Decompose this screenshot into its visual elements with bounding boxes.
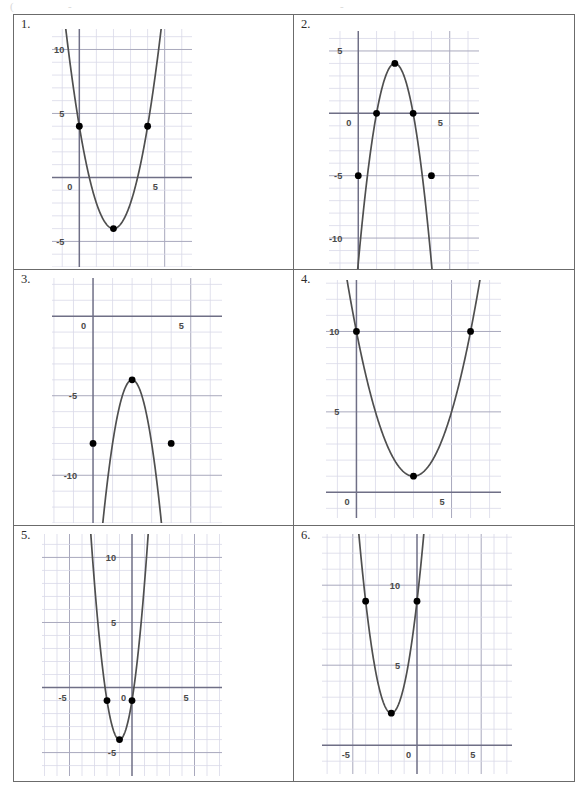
x-axis-tick-label: 0 [81, 322, 86, 332]
y-axis-tick-label: 10 [106, 553, 116, 563]
data-point [388, 709, 395, 716]
x-axis-tick-label: 0 [344, 498, 349, 508]
graph-4: 05105 [294, 270, 574, 524]
x-axis-tick-label: 0 [406, 750, 411, 760]
data-point [110, 225, 117, 232]
data-point [129, 697, 136, 704]
graph-1: 05105-5 [14, 15, 293, 269]
y-axis-tick-label: -10 [64, 471, 77, 481]
data-point [428, 172, 435, 179]
graph-5: -505105-5 [14, 526, 293, 781]
data-point [391, 60, 398, 67]
problem-number-6: 6. [301, 529, 310, 542]
problem-cell-1: 1. 05105-5 [14, 15, 294, 270]
data-point [355, 172, 362, 179]
x-axis-tick-label: -5 [59, 692, 67, 702]
x-axis-tick-label: 5 [470, 750, 475, 760]
x-axis-tick-label: 0 [121, 692, 126, 702]
problem-cell-3: 3. 05-5-10 [14, 270, 294, 525]
x-axis-tick-label: 5 [440, 498, 445, 508]
y-axis-tick-label: 10 [54, 45, 64, 55]
y-axis-tick-label: 10 [390, 580, 400, 590]
x-axis-tick-label: 5 [184, 692, 189, 702]
problem-cell-6: 6. -505105 [294, 526, 574, 781]
x-axis-tick-label: 5 [153, 182, 158, 192]
problem-number-3: 3. [21, 273, 30, 286]
y-axis-tick-label: 5 [334, 408, 339, 418]
graph-2: 055-5-10 [294, 15, 574, 269]
x-axis-tick-label: 0 [346, 118, 351, 128]
problem-cell-5: 5. -505105-5 [14, 526, 294, 781]
problem-cell-4: 4. 05105 [294, 270, 574, 525]
problem-number-5: 5. [21, 529, 30, 542]
x-axis-tick-label: 5 [438, 118, 443, 128]
y-axis-tick-label: -10 [329, 234, 342, 244]
data-point [104, 697, 111, 704]
data-point [353, 328, 360, 335]
data-point [116, 736, 123, 743]
y-axis-tick-label: 5 [395, 660, 400, 670]
x-axis-tick-label: 5 [179, 322, 184, 332]
graph-6: -505105 [294, 526, 574, 781]
y-axis-tick-label: 5 [337, 46, 342, 56]
data-point [76, 123, 83, 130]
data-point [90, 440, 97, 447]
data-point [410, 110, 417, 117]
graph-3: 05-5-10 [14, 270, 293, 524]
problem-cell-2: 2. 055-5-10 [294, 15, 574, 270]
scan-artifact: ( - - [0, 0, 588, 12]
y-axis-tick-label: 5 [111, 618, 116, 628]
problem-number-4: 4. [301, 273, 310, 286]
y-axis-tick-label: 10 [329, 327, 339, 337]
worksheet-grid: 1. 05105-5 2. 055-5-10 3. 05-5-10 4. 051… [13, 14, 575, 782]
y-axis-tick-label: -5 [108, 748, 116, 758]
problem-number-1: 1. [21, 18, 30, 31]
x-axis-tick-label: -5 [342, 750, 350, 760]
data-point [144, 123, 151, 130]
data-point [414, 597, 421, 604]
data-point [410, 473, 417, 480]
y-axis-tick-label: -5 [334, 171, 342, 181]
problem-number-2: 2. [301, 18, 310, 31]
data-point [373, 110, 380, 117]
data-point [362, 597, 369, 604]
x-axis-tick-label: 0 [67, 182, 72, 192]
y-axis-tick-label: -5 [69, 392, 77, 402]
data-point [467, 328, 474, 335]
y-axis-tick-label: 5 [59, 109, 64, 119]
data-point [168, 440, 175, 447]
data-point [129, 377, 136, 384]
y-axis-tick-label: -5 [56, 237, 64, 247]
